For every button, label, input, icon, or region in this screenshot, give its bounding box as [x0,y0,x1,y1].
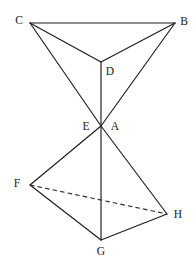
edge-e-h [101,126,167,214]
vertex-label-c: C [15,15,23,27]
figure-canvas [0,0,195,267]
edges-layer [30,23,175,240]
geometry-figure: CBDEAFHG [0,0,195,267]
edge-b-d [101,23,175,62]
edge-c-d [30,23,101,62]
vertex-label-e: E [82,121,89,133]
edge-e-f [30,126,101,185]
edge-c-a [30,23,101,126]
edge-f-g [30,185,101,240]
edge-g-h [101,214,167,240]
vertex-label-a: A [111,121,119,133]
vertex-label-b: B [180,16,188,28]
vertex-label-h: H [174,209,182,221]
vertex-label-g: G [97,246,105,258]
vertex-label-f: F [14,178,20,190]
edge-f-h [30,185,167,214]
vertex-label-d: D [106,66,114,78]
